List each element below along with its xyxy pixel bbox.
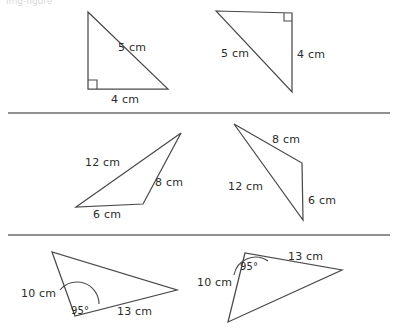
triangle-5-angle-arc-icon xyxy=(60,282,99,304)
triangle-4-side-6cm-label: 6 cm xyxy=(308,194,336,207)
figure-page: img-figure 5 cm 4 cm 5 cm 4 cm 12 cm 8 c… xyxy=(0,0,402,334)
triangle-3-side-8cm-label: 8 cm xyxy=(155,176,183,189)
triangle-2-vertical-side-label: 4 cm xyxy=(297,48,325,61)
triangle-3-side-6cm-label: 6 cm xyxy=(93,208,121,221)
triangle-1-hypotenuse-label: 5 cm xyxy=(118,41,146,54)
triangle-5-angle-label: 95° xyxy=(71,305,89,316)
triangle-3-shape xyxy=(76,133,181,207)
triangle-5-side-13cm-label: 13 cm xyxy=(117,305,152,318)
triangle-1-right-angle-icon xyxy=(88,80,97,89)
triangle-5-side-10cm-label: 10 cm xyxy=(21,287,56,300)
triangle-4-side-8cm-label: 8 cm xyxy=(272,133,300,146)
triangle-4-side-12cm-label: 12 cm xyxy=(228,180,263,193)
triangle-6-angle-label: 95° xyxy=(240,261,258,272)
triangle-1-base-label: 4 cm xyxy=(111,93,139,106)
triangle-6-side-10cm-label: 10 cm xyxy=(197,276,232,289)
triangle-2-hypotenuse-label: 5 cm xyxy=(221,47,249,60)
triangle-2-right-angle-icon xyxy=(284,13,292,21)
triangle-6-side-13cm-label: 13 cm xyxy=(288,250,323,263)
triangle-3-side-12cm-label: 12 cm xyxy=(85,156,120,169)
